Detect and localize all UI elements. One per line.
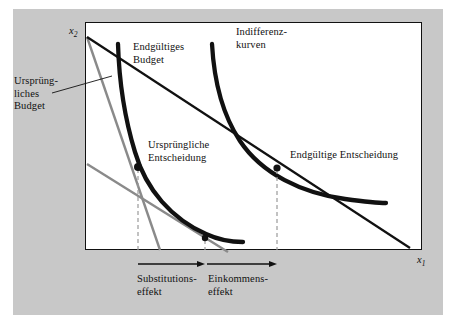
diagram-figure: x2 x1 Ursprüng- liches Budget Endgültige… xyxy=(0,0,459,328)
label-indifference-curves: Indifferenz- kurven xyxy=(236,26,287,51)
label-final-budget: Endgültiges Budget xyxy=(133,41,184,66)
label-original-budget: Ursprüng- liches Budget xyxy=(14,75,58,113)
y-axis-label-sub: 2 xyxy=(74,30,78,39)
x-axis-label: x1 xyxy=(417,254,425,268)
x-axis-label-sub: 1 xyxy=(422,259,426,268)
label-substitution-effect: Substitutions- effekt xyxy=(137,273,197,298)
label-income-effect: Einkommens- effekt xyxy=(208,273,268,298)
label-original-choice: Ursprüngliche Entscheidung xyxy=(148,139,209,164)
y-axis-label: x2 xyxy=(69,25,77,39)
label-final-choice: Endgültige Entscheidung xyxy=(290,149,398,162)
